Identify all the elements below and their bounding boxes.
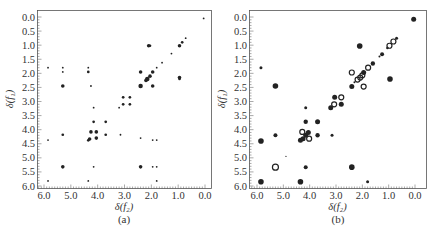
cross-peak (178, 78, 181, 81)
cross-peak (118, 107, 120, 109)
x-tick-label: 4.0 (91, 190, 104, 201)
y-tick-label: 0.5 (22, 26, 35, 37)
cross-peak (152, 166, 154, 168)
cross-peak (95, 136, 99, 140)
y-tick-label: 0.5 (234, 26, 247, 37)
cross-peak (357, 43, 363, 49)
cross-peak (258, 138, 264, 144)
cross-peak (258, 179, 264, 185)
cross-peak (339, 102, 344, 107)
cross-peak (349, 164, 355, 170)
cross-peak (411, 17, 416, 22)
cross-peak (152, 139, 154, 141)
y-tick-label: 3.5 (234, 110, 247, 121)
cross-peak (156, 166, 158, 168)
cross-peak (90, 85, 92, 87)
y-tick-label: 1.5 (234, 54, 247, 65)
caption-b: (b) (318, 213, 358, 225)
x-tick-label: 4.0 (303, 190, 316, 201)
y-tick-label: 6.0 (22, 181, 35, 192)
cross-peak-open (272, 164, 278, 170)
y-tick-label: 1.0 (234, 40, 247, 51)
y-axis-label: δ(f₁) (216, 89, 228, 108)
cross-peak (273, 133, 277, 137)
x-tick-label: 2.0 (145, 190, 158, 201)
cross-peak (298, 138, 303, 143)
cross-peak (156, 139, 158, 141)
x-tick-label: 3.0 (118, 190, 131, 201)
cross-peak (353, 81, 355, 83)
plot-frame (250, 11, 427, 189)
y-tick-label: 6.0 (234, 181, 247, 192)
y-tick-label: 1.0 (22, 40, 35, 51)
cross-peak (331, 134, 334, 137)
plot-frame (38, 11, 212, 189)
cross-peak (259, 66, 262, 69)
cross-peak-open (361, 84, 366, 89)
y-tick-label: 4.0 (22, 124, 35, 135)
cross-peak-open (349, 70, 354, 75)
cross-peak-open (307, 136, 312, 141)
y-tick-label: 2.5 (234, 82, 247, 93)
panel-a: 0.00.51.01.52.02.53.03.54.04.55.05.56.06… (4, 11, 212, 214)
x-axis-label: δ(f₂) (328, 201, 347, 213)
y-tick-label: 2.0 (234, 68, 247, 79)
cross-peak (120, 134, 122, 136)
cross-peak (104, 120, 107, 123)
cross-peak (304, 120, 308, 124)
y-tick-label: 4.5 (22, 138, 35, 149)
cross-peak-open (391, 39, 396, 44)
x-tick-label: 5.0 (277, 190, 290, 201)
cross-peak (395, 37, 398, 40)
y-tick-label: 3.5 (22, 110, 35, 121)
cross-peak (61, 165, 65, 169)
cross-peak (138, 84, 143, 89)
cross-peak (273, 83, 279, 89)
y-tick-label: 4.5 (234, 138, 247, 149)
cross-peak (139, 70, 143, 74)
cross-peak (366, 180, 369, 183)
cross-peak (144, 79, 148, 83)
cross-peak (122, 96, 125, 99)
cross-peak (61, 84, 65, 88)
cross-peak (285, 156, 286, 157)
figure: 0.00.51.01.52.02.53.03.54.04.55.05.56.06… (0, 0, 434, 237)
x-tick-label: 0.0 (198, 190, 211, 201)
cross-peak (315, 119, 320, 124)
x-tick-label: 6.0 (250, 190, 263, 201)
cross-peak (87, 139, 90, 142)
cross-peak (149, 44, 152, 47)
y-axis-label: δ(f₁) (4, 89, 16, 108)
cross-peak (129, 96, 132, 99)
x-tick-label: 1.0 (172, 190, 185, 201)
x-tick-label: 5.0 (64, 190, 77, 201)
cross-peak (304, 165, 308, 169)
x-axis-label: δ(f₂) (115, 201, 134, 213)
cross-peak (62, 67, 64, 69)
cross-peak (371, 61, 375, 65)
y-tick-label: 0.0 (234, 12, 247, 23)
cross-peak (87, 180, 89, 182)
y-tick-label: 2.5 (22, 82, 35, 93)
y-tick-label: 5.5 (234, 166, 247, 177)
x-tick-label: 3.0 (329, 190, 342, 201)
cross-peak (61, 133, 64, 136)
cross-peak (95, 130, 99, 134)
y-tick-label: 2.0 (22, 68, 35, 79)
cross-peak (332, 95, 337, 100)
cross-peak (62, 71, 64, 73)
cross-peak (89, 130, 93, 134)
y-tick-label: 3.0 (234, 96, 247, 107)
cross-peak (47, 180, 49, 182)
y-tick-label: 4.0 (234, 124, 247, 135)
cross-peak (315, 133, 319, 137)
cross-peak (156, 180, 158, 182)
cross-peak (298, 179, 304, 185)
cross-peak (156, 67, 158, 69)
y-tick-label: 1.5 (22, 54, 35, 65)
cross-peak (151, 70, 155, 74)
cross-peak (87, 71, 90, 74)
cross-peak (380, 52, 384, 56)
cross-peak (304, 106, 307, 109)
cross-peak (185, 37, 187, 39)
